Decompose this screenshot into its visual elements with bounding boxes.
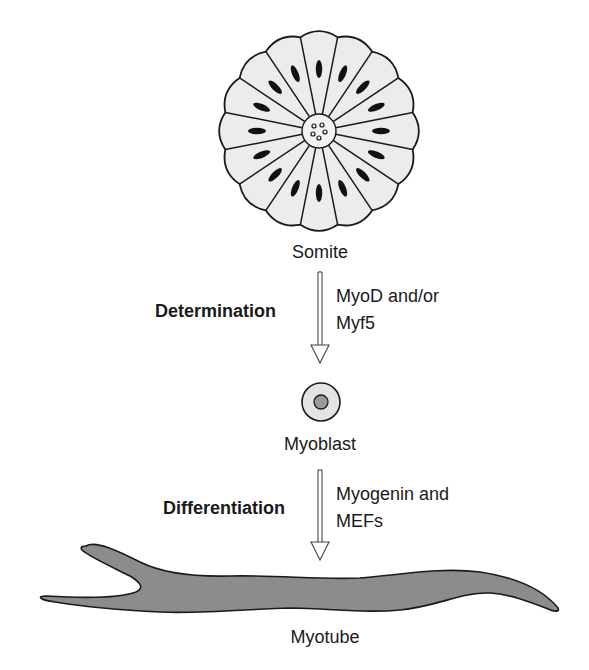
somite-label: Somite [292, 241, 348, 263]
myotube-illustration [40, 544, 558, 612]
diagram-canvas [0, 0, 589, 670]
differentiation-arrow [311, 470, 329, 560]
differentiation-factors: Myogenin and MEFs [336, 481, 449, 535]
differentiation-factors-line2: MEFs [336, 508, 449, 535]
differentiation-label: Differentiation [163, 497, 285, 519]
myoblast-illustration [302, 383, 340, 421]
myotube-label: Myotube [290, 626, 359, 648]
differentiation-factors-line1: Myogenin and [336, 481, 449, 508]
determination-factors-line2: Myf5 [336, 310, 439, 337]
myoblast-label: Myoblast [284, 433, 356, 455]
determination-factors-line1: MyoD and/or [336, 283, 439, 310]
determination-label: Determination [155, 300, 276, 322]
somite-illustration [219, 31, 419, 231]
determination-factors: MyoD and/or Myf5 [336, 283, 439, 337]
determination-arrow [311, 272, 329, 363]
